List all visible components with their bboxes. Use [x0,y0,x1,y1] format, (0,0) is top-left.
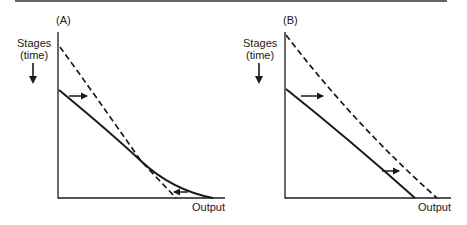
panel-a-label: (A) [56,14,71,26]
panel-b-label: (B) [283,14,298,26]
panel-a: (A) Stages (time) Output [17,14,225,213]
panel-a-solid-curve [59,90,213,198]
down-arrow-icon [29,63,37,84]
panel-b-dashed-curve [286,35,437,198]
down-arrow-icon [255,63,263,84]
figure-canvas: (A) Stages (time) Output (B) Stages (tim… [0,0,467,225]
panel-a-y-label-line1: Stages [17,37,52,49]
panel-b-solid-curve [286,89,415,198]
panel-b-x-label: Output [418,201,451,213]
panel-b-y-label-line1: Stages [243,37,278,49]
panel-a-y-label-line2: (time) [20,49,48,61]
panel-a-x-label: Output [192,201,225,213]
panel-b: (B) Stages (time) Output [243,14,451,213]
panel-b-y-label-line2: (time) [246,49,274,61]
